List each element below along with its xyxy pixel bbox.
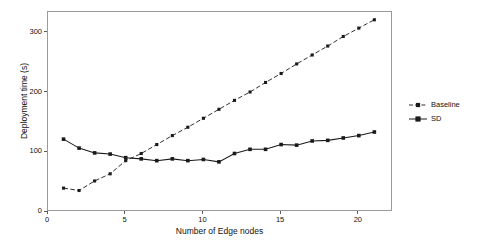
- x-tick-label-10: 10: [187, 215, 217, 224]
- data-point-baseline-2: [78, 189, 81, 192]
- y-tick-mark-100: [44, 151, 47, 152]
- data-point-sd-21: [373, 130, 377, 134]
- y-tick-label-300: 300: [5, 27, 42, 36]
- data-point-sd-20: [357, 134, 361, 138]
- legend-label-baseline: Baseline: [431, 101, 460, 109]
- y-tick-label-0: 0: [5, 206, 42, 215]
- x-tick-label-15: 15: [265, 215, 295, 224]
- data-point-baseline-15: [280, 72, 283, 75]
- x-tick-label-5: 5: [110, 215, 140, 224]
- y-tick-mark-200: [44, 91, 47, 92]
- data-point-baseline-12: [233, 99, 236, 102]
- chart-legend: Baseline SD: [409, 98, 479, 126]
- data-point-sd-1: [62, 137, 66, 141]
- data-point-sd-6: [139, 157, 143, 161]
- data-point-baseline-1: [62, 187, 65, 190]
- data-point-baseline-11: [217, 108, 220, 111]
- legend-swatch-solid-line-icon: [409, 115, 427, 123]
- data-point-sd-7: [155, 159, 159, 163]
- legend-label-sd: SD: [431, 115, 441, 123]
- data-point-baseline-7: [155, 143, 158, 146]
- data-point-baseline-13: [248, 90, 251, 93]
- data-point-baseline-5: [124, 159, 127, 162]
- chart-figure: Deployment time (s) 010020030005101520 N…: [0, 0, 481, 242]
- legend-swatch-dashed-line-icon: [409, 101, 427, 109]
- data-point-baseline-8: [171, 134, 174, 137]
- data-point-sd-15: [279, 143, 283, 147]
- data-point-baseline-18: [326, 44, 329, 47]
- legend-item-sd[interactable]: SD: [409, 112, 479, 126]
- data-point-baseline-3: [93, 179, 96, 182]
- x-tick-mark-10: [202, 211, 203, 214]
- x-tick-label-20: 20: [343, 215, 373, 224]
- x-tick-mark-5: [124, 211, 125, 214]
- data-point-sd-12: [233, 152, 237, 156]
- data-point-baseline-6: [140, 152, 143, 155]
- data-point-sd-13: [248, 148, 252, 152]
- data-point-sd-8: [171, 157, 175, 161]
- x-tick-mark-15: [280, 211, 281, 214]
- data-point-baseline-20: [357, 27, 360, 30]
- y-tick-label-200: 200: [5, 87, 42, 96]
- data-point-baseline-10: [202, 117, 205, 120]
- data-point-sd-2: [77, 146, 81, 150]
- data-point-sd-5: [124, 156, 128, 160]
- series-canvas: [48, 12, 393, 212]
- data-point-baseline-17: [311, 53, 314, 56]
- data-point-sd-9: [186, 159, 190, 163]
- x-tick-mark-20: [357, 211, 358, 214]
- data-point-baseline-19: [342, 35, 345, 38]
- data-point-sd-11: [217, 160, 221, 164]
- x-axis-title: Number of Edge nodes: [47, 226, 392, 236]
- y-tick-mark-300: [44, 31, 47, 32]
- data-point-baseline-16: [295, 62, 298, 65]
- y-tick-label-100: 100: [5, 146, 42, 155]
- x-tick-label-0: 0: [32, 215, 62, 224]
- data-point-baseline-4: [109, 172, 112, 175]
- data-point-sd-3: [93, 151, 97, 155]
- x-tick-mark-0: [47, 211, 48, 214]
- data-point-sd-14: [264, 148, 268, 152]
- plot-area: [47, 11, 392, 211]
- data-point-sd-18: [326, 139, 330, 143]
- legend-item-baseline[interactable]: Baseline: [409, 98, 479, 112]
- data-point-baseline-21: [373, 18, 376, 21]
- data-point-sd-10: [202, 158, 206, 162]
- data-point-sd-17: [310, 139, 314, 143]
- data-point-sd-19: [341, 136, 345, 140]
- data-point-baseline-9: [186, 126, 189, 129]
- data-point-sd-4: [108, 152, 112, 156]
- data-point-sd-16: [295, 143, 299, 147]
- series-line-sd: [64, 132, 375, 162]
- data-point-baseline-14: [264, 81, 267, 84]
